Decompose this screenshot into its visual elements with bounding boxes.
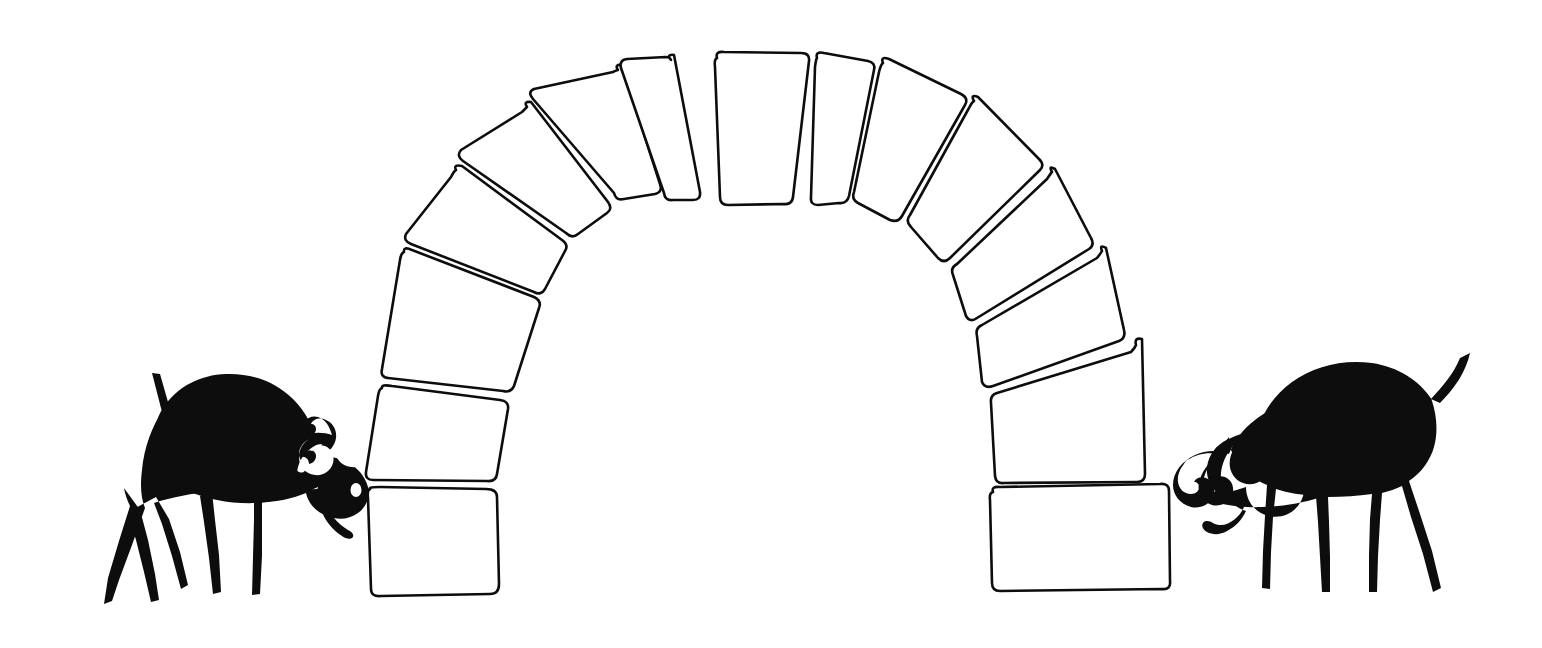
arch-block-keystone — [715, 52, 809, 205]
arch-block-l1 — [368, 487, 499, 596]
arch-block-l2 — [366, 385, 508, 481]
arch-and-animals-illustration — [0, 0, 1542, 648]
right-animal-eye — [1184, 459, 1196, 473]
artwork-canvas — [0, 0, 1542, 648]
left-animal-eye — [351, 483, 362, 497]
arch-block-r1 — [990, 484, 1170, 591]
